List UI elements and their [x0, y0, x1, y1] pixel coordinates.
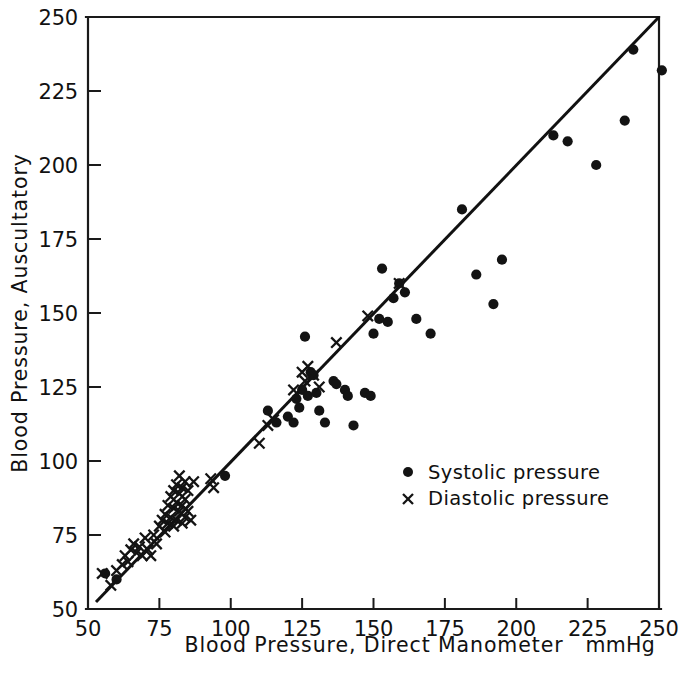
point-systolic — [291, 394, 301, 404]
point-systolic — [220, 471, 230, 481]
point-systolic — [377, 264, 387, 274]
legend-label-diastolic: Diastolic pressure — [428, 487, 609, 510]
point-diastolic — [331, 337, 341, 347]
point-systolic — [628, 44, 638, 54]
point-diastolic — [188, 477, 198, 487]
scatter-plot-figure: 5075100125150175200225250507510012515017… — [0, 0, 689, 676]
legend-label-systolic: Systolic pressure — [428, 461, 600, 484]
y-tick-label-50: 50 — [52, 598, 78, 622]
identity-line-path — [96, 17, 659, 602]
point-systolic — [591, 160, 601, 170]
point-systolic — [263, 406, 273, 416]
point-systolic — [620, 116, 630, 126]
y-tick-label-225: 225 — [39, 80, 78, 104]
point-systolic — [294, 403, 304, 413]
point-systolic — [366, 391, 376, 401]
y-tick-label-250: 250 — [39, 6, 78, 30]
point-systolic — [457, 204, 467, 214]
point-diastolic — [140, 533, 150, 543]
point-systolic — [383, 317, 393, 327]
point-systolic — [497, 255, 507, 265]
point-systolic — [288, 417, 298, 427]
identity-reference-line — [96, 17, 659, 602]
point-systolic — [488, 299, 498, 309]
point-diastolic — [208, 482, 218, 492]
y-tick-label-150: 150 — [39, 302, 78, 326]
x-tick-label-50: 50 — [75, 617, 101, 641]
plot-canvas: 5075100125150175200225250507510012515017… — [0, 0, 689, 676]
point-systolic — [300, 332, 310, 342]
y-tick-label-125: 125 — [39, 376, 78, 400]
y-tick-label-75: 75 — [52, 524, 78, 548]
point-systolic — [314, 406, 324, 416]
point-systolic — [411, 314, 421, 324]
point-systolic — [368, 329, 378, 339]
y-tick-label-175: 175 — [39, 228, 78, 252]
series-diastolic-pressure — [97, 278, 404, 590]
x-axis-title: Blood Pressure, Direct Manometer — [184, 633, 563, 657]
point-systolic — [388, 293, 398, 303]
point-systolic — [320, 417, 330, 427]
point-systolic — [331, 379, 341, 389]
y-tick-label-200: 200 — [39, 154, 78, 178]
unit-label: mmHg — [585, 633, 655, 657]
point-systolic — [400, 287, 410, 297]
y-tick-label-100: 100 — [39, 450, 78, 474]
point-diastolic — [106, 580, 116, 590]
legend-marker-systolic-icon — [403, 467, 413, 477]
point-systolic — [343, 391, 353, 401]
point-systolic — [426, 329, 436, 339]
point-systolic — [657, 65, 667, 75]
point-systolic — [563, 136, 573, 146]
x-tick-label-75: 75 — [146, 617, 172, 641]
point-systolic — [348, 420, 358, 430]
point-systolic — [548, 130, 558, 140]
legend-marker-diastolic-icon — [403, 494, 413, 504]
point-diastolic — [148, 530, 158, 540]
chart-legend: Systolic pressure Diastolic pressure — [403, 461, 609, 510]
y-axis-title: Blood Pressure, Auscultatory — [8, 153, 32, 473]
point-systolic — [471, 269, 481, 279]
point-diastolic — [254, 438, 264, 448]
